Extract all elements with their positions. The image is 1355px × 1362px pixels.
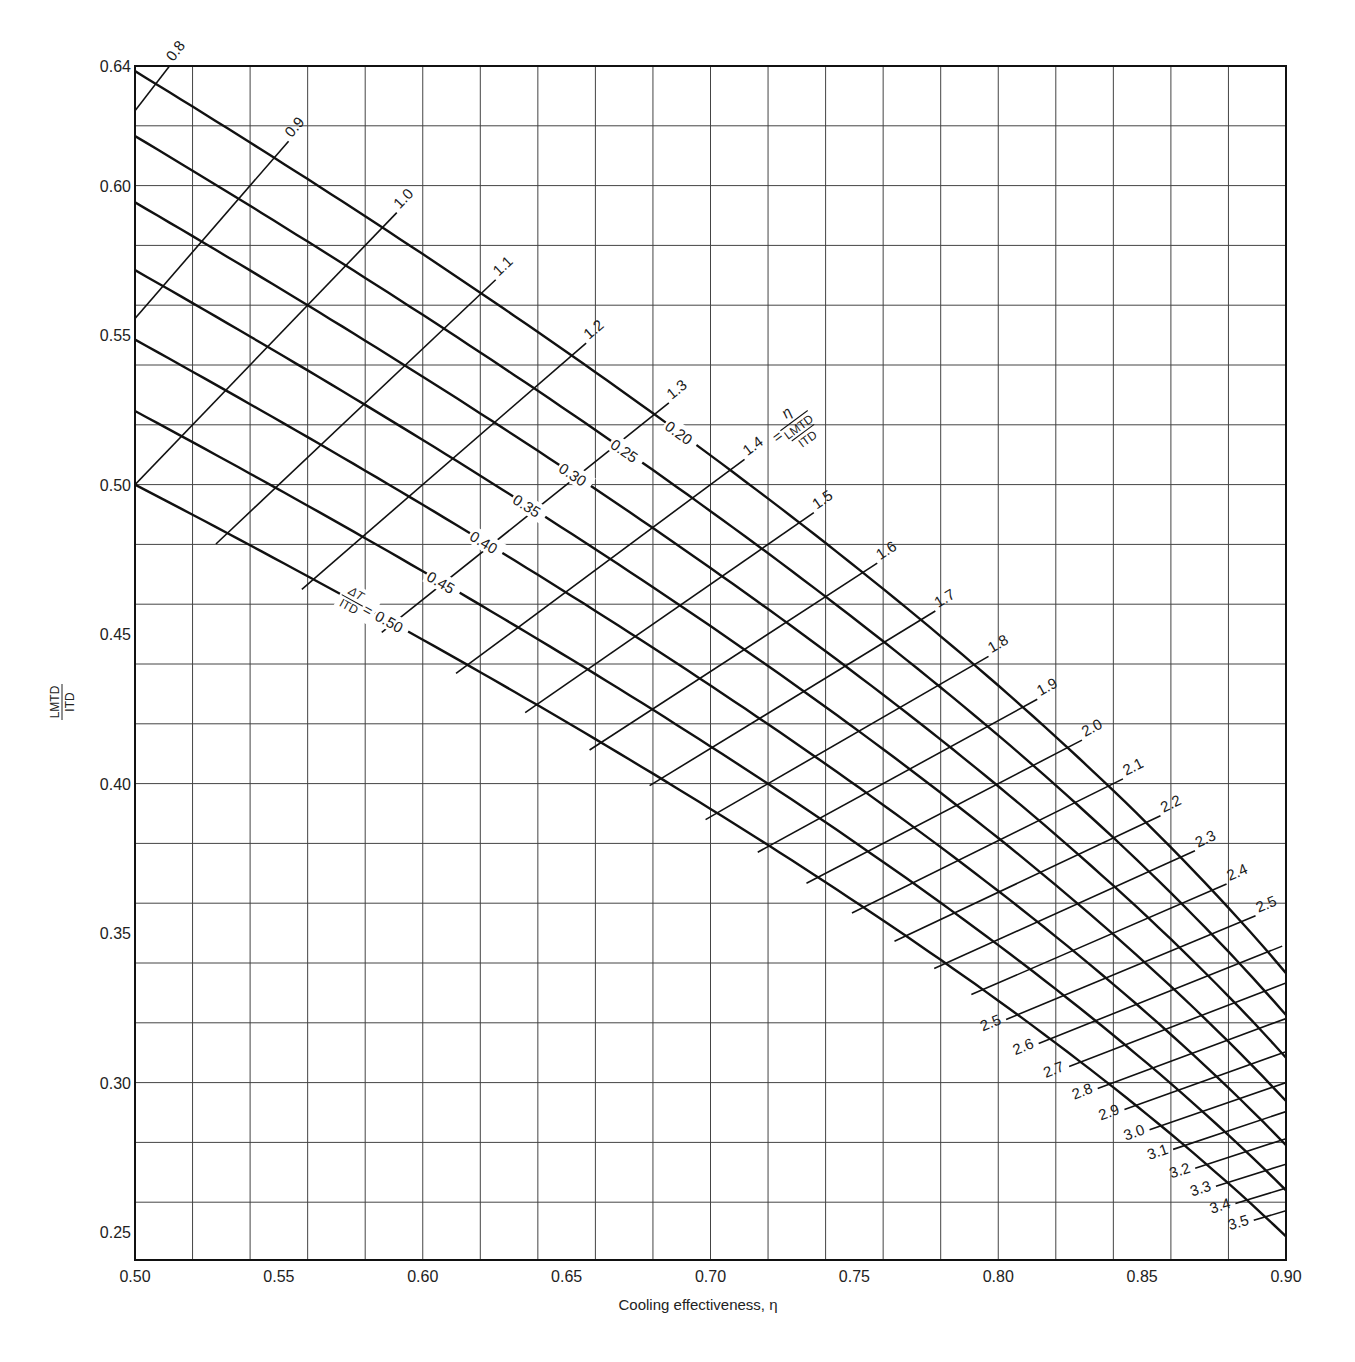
ntu-upper-label: 2.1	[1120, 754, 1146, 778]
ntu-line-1.8	[706, 656, 989, 819]
ntu-upper-label: 0.9	[281, 113, 308, 140]
ntu-line-0.8	[135, 65, 170, 111]
dt-label-0.30: 0.30	[554, 457, 596, 493]
ntu-lower-label: 3.0	[1121, 1121, 1146, 1144]
ntu-upper-label: 2.0	[1078, 715, 1104, 740]
dt-label-0.20: 0.20	[660, 415, 701, 452]
ntu-upper-label: 1.7	[931, 585, 958, 610]
dt-label-0.25: 0.25	[606, 433, 647, 469]
ntu-upper-label: 2.5	[1253, 892, 1279, 916]
ntu-line-1.9	[758, 699, 1038, 852]
x-tick-label: 0.65	[551, 1268, 582, 1285]
dt-label-0.40: 0.40	[465, 525, 507, 560]
ntu-line-0.9	[135, 141, 289, 318]
ntu-lower-label: 2.5	[977, 1011, 1003, 1035]
ntu-upper-label: 1.5	[809, 486, 836, 512]
ntu-upper-label: 1.8	[985, 631, 1012, 656]
ntu-line-3.3	[1216, 1164, 1286, 1186]
y-tick-label: 0.35	[100, 925, 131, 942]
ntu-lower-label: 3.1	[1145, 1140, 1170, 1163]
y-axis-title-numerator: LMTD	[48, 685, 62, 718]
y-tick-label: 0.40	[100, 776, 131, 793]
ntu-line-2.2	[894, 816, 1160, 942]
ntu-equation-label: =ηLMTDITD	[760, 394, 825, 460]
x-tick-label: 0.80	[983, 1268, 1014, 1285]
x-tick-label: 0.90	[1270, 1268, 1301, 1285]
y-tick-label: 0.45	[100, 626, 131, 643]
ntu-upper-label: 1.1	[489, 252, 516, 279]
x-tick-label: 0.70	[695, 1268, 726, 1285]
curve-labels: 0.80.91.01.11.21.31.4=ηLMTDITD1.51.61.71…	[162, 37, 1279, 1233]
x-tick-label: 0.85	[1127, 1268, 1158, 1285]
y-tick-label: 0.25	[100, 1224, 131, 1241]
equation-numerator: η	[778, 403, 795, 422]
ntu-line-2.1	[852, 779, 1123, 913]
ntu-lower-label: 3.5	[1226, 1211, 1251, 1233]
ntu-line-3.2	[1195, 1139, 1286, 1168]
ntu-upper-label: 2.2	[1157, 791, 1183, 815]
ntu-line-1.3	[382, 403, 669, 633]
ntu-upper-label: 0.8	[162, 37, 188, 64]
ntu-lower-label: 3.3	[1188, 1177, 1213, 1199]
y-tick-label: 0.55	[100, 327, 131, 344]
ntu-upper-label: 2.4	[1224, 860, 1250, 884]
ntu-line-1.1	[216, 280, 496, 544]
ntu-line-1.5	[525, 513, 814, 713]
grid-lines	[135, 66, 1286, 1260]
ntu-line-1.7	[650, 611, 936, 786]
ntu-line-1.0	[135, 213, 397, 485]
dt-label-0.50: 0.50ΔTITD=	[333, 580, 416, 644]
y-tick-label: 0.30	[100, 1075, 131, 1092]
ntu-upper-label: 1.0	[390, 185, 417, 212]
ntu-upper-label: 1.3	[663, 376, 690, 402]
ntu-upper-label: 1.4	[739, 433, 766, 459]
ntu-lower-label: 2.7	[1041, 1057, 1067, 1080]
ntu-line-2.9	[1124, 1052, 1286, 1110]
ntu-lower-label: 2.9	[1096, 1100, 1121, 1123]
x-axis-title: Cooling effectiveness, η	[619, 1296, 778, 1313]
x-axis-ticks: 0.500.550.600.650.700.750.800.850.90	[119, 1268, 1301, 1285]
ntu-line-2.5	[1006, 916, 1255, 1020]
ntu-lower-label: 2.6	[1010, 1034, 1036, 1058]
x-tick-label: 0.50	[119, 1268, 150, 1285]
x-tick-label: 0.60	[407, 1268, 438, 1285]
y-axis-title: LMTD ITD	[48, 684, 77, 720]
y-tick-label: 0.50	[100, 477, 131, 494]
ntu-line-2.0	[806, 740, 1081, 883]
chart: 0.80.91.01.11.21.31.4=ηLMTDITD1.51.61.71…	[0, 0, 1355, 1362]
y-tick-label: 0.60	[100, 178, 131, 195]
ntu-upper-label: 1.2	[580, 316, 607, 343]
y-axis-title-denominator: ITD	[63, 692, 77, 712]
ntu-line-2.8	[1098, 1019, 1286, 1089]
ntu-upper-label: 2.3	[1192, 826, 1218, 850]
x-tick-label: 0.55	[263, 1268, 294, 1285]
ntu-line-2.3	[934, 851, 1195, 969]
x-tick-label: 0.75	[839, 1268, 870, 1285]
ntu-upper-label: 1.6	[873, 537, 900, 563]
y-axis-ticks: 0.640.600.550.500.450.400.350.300.25	[100, 58, 131, 1241]
y-tick-label: 0.64	[100, 58, 131, 75]
ntu-line-2.6	[1039, 946, 1283, 1043]
dt-label-0.35: 0.35	[508, 489, 550, 525]
ntu-line-1.2	[302, 343, 586, 589]
